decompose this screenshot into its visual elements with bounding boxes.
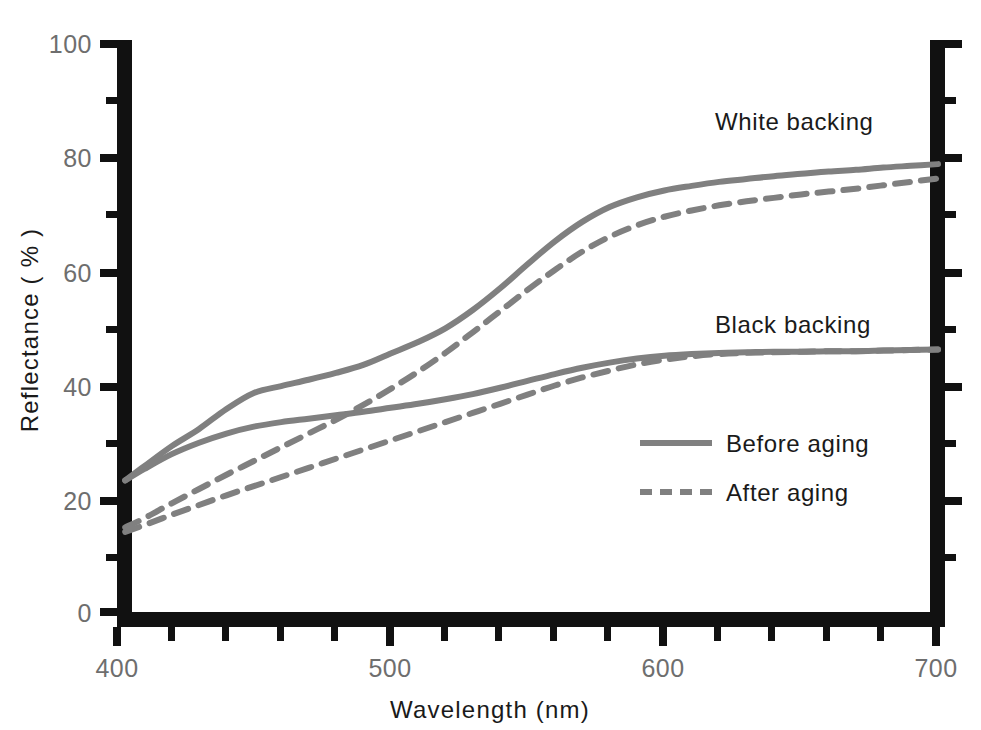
- y-tick-minor-30: [106, 440, 117, 447]
- x-tick-labels: 400 500 600 700: [95, 654, 957, 682]
- data-curves: [125, 164, 938, 532]
- y-tick-right-major-20: [945, 497, 962, 505]
- chart-figure: 100 80 60 40 20 0 400 500 600 700 Wavele…: [0, 0, 981, 730]
- annotation-black-backing: Black backing: [715, 311, 871, 338]
- x-tick-560: [550, 627, 557, 641]
- x-tick-label-500: 500: [368, 654, 411, 682]
- y-axis-title: Reflectance ( % ): [16, 228, 43, 432]
- x-tick-700: [932, 627, 940, 646]
- x-tick-580: [604, 627, 611, 641]
- x-axis-ticks: [113, 627, 940, 646]
- y-tick-minor-90: [106, 97, 117, 104]
- y-axis-left-spine: [117, 40, 132, 627]
- x-tick-480: [331, 627, 338, 641]
- legend: Before aging After aging: [640, 430, 869, 506]
- y-tick-label-0: 0: [78, 599, 92, 627]
- y-tick-label-60: 60: [63, 259, 92, 287]
- y-tick-label-100: 100: [49, 30, 92, 58]
- y-tick-right-minor-50: [945, 326, 956, 333]
- y-tick-labels: 100 80 60 40 20 0: [49, 30, 92, 627]
- annotation-white-backing: White backing: [715, 108, 874, 135]
- x-tick-520: [441, 627, 448, 641]
- x-tick-500: [386, 627, 394, 646]
- y-tick-right-major-60: [945, 269, 962, 277]
- x-tick-660: [823, 627, 830, 641]
- x-axis-bottom-spine: [117, 612, 945, 627]
- x-tick-label-700: 700: [914, 654, 957, 682]
- x-tick-640: [768, 627, 775, 641]
- y-tick-minor-50: [106, 326, 117, 333]
- y-tick-major-0: [100, 608, 117, 616]
- y-tick-right-major-80: [945, 154, 962, 162]
- legend-item-before-aging: Before aging: [640, 430, 869, 457]
- y-tick-major-80: [100, 154, 117, 162]
- y-tick-right-minor-10: [945, 554, 956, 561]
- y-tick-label-40: 40: [63, 373, 92, 401]
- legend-item-after-aging: After aging: [640, 479, 849, 506]
- y-tick-right-major-100: [945, 40, 962, 48]
- y-tick-label-80: 80: [63, 144, 92, 172]
- x-tick-600: [659, 627, 667, 646]
- x-tick-460: [277, 627, 284, 641]
- reflectance-line-chart: 100 80 60 40 20 0 400 500 600 700 Wavele…: [0, 0, 981, 730]
- y-tick-right-minor-90: [945, 97, 956, 104]
- x-tick-540: [495, 627, 502, 641]
- y-axis-ticks-right: [945, 40, 962, 561]
- curve-black-backing-before-aging: [125, 349, 938, 480]
- x-tick-680: [877, 627, 884, 641]
- x-tick-420: [168, 627, 175, 641]
- x-axis-title: Wavelength (nm): [390, 696, 590, 723]
- y-tick-major-100: [100, 40, 117, 48]
- x-tick-label-400: 400: [95, 654, 138, 682]
- y-axis-right-spine: [930, 40, 945, 627]
- y-tick-right-major-40: [945, 383, 962, 391]
- x-tick-label-600: 600: [641, 654, 684, 682]
- y-tick-minor-10: [106, 554, 117, 561]
- y-axis-ticks: [100, 40, 117, 616]
- y-tick-right-minor-30: [945, 440, 956, 447]
- legend-label-before-aging: Before aging: [726, 430, 869, 457]
- x-tick-400: [113, 627, 121, 646]
- x-tick-620: [714, 627, 721, 641]
- legend-label-after-aging: After aging: [726, 479, 849, 506]
- y-tick-right-minor-70: [945, 211, 956, 218]
- y-tick-major-20: [100, 497, 117, 505]
- y-tick-major-60: [100, 269, 117, 277]
- y-tick-major-40: [100, 383, 117, 391]
- y-tick-label-20: 20: [63, 487, 92, 515]
- x-tick-440: [222, 627, 229, 641]
- y-tick-minor-70: [106, 211, 117, 218]
